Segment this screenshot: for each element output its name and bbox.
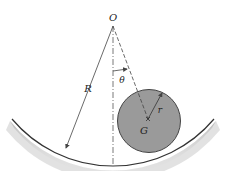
label-r: r xyxy=(158,105,163,115)
theta-arc xyxy=(113,69,127,71)
label-O: O xyxy=(109,12,117,23)
cylinder-in-circular-path-diagram: O R θ r G xyxy=(0,0,227,171)
cylinder xyxy=(118,90,181,153)
label-G: G xyxy=(140,125,148,136)
label-R: R xyxy=(83,83,92,94)
label-theta: θ xyxy=(119,75,125,85)
